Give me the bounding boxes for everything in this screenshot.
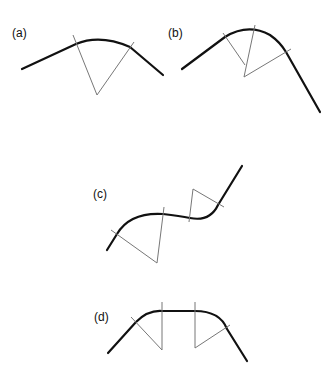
panel-d-curve (108, 311, 247, 361)
panel-b-radius-2 (244, 25, 255, 77)
panel-a-radius-left (73, 35, 97, 95)
panel-a-radius-right (97, 42, 134, 95)
panel-d-figure (108, 302, 247, 361)
panel-c-radius-4 (193, 189, 224, 207)
panel-b-radius-1 (223, 33, 245, 65)
panel-d-radius-4 (195, 325, 230, 348)
panel-c-radius-3 (189, 189, 193, 222)
panel-c-radius-1 (111, 230, 157, 263)
panel-c-radius-2 (157, 207, 164, 263)
panel-a-figure (22, 35, 163, 95)
panel-c-curve (107, 166, 242, 250)
curves-diagram (0, 0, 335, 372)
panel-c-figure (107, 166, 242, 263)
panel-b-radius-3 (244, 49, 291, 77)
panel-d-radius-1 (131, 317, 162, 350)
panel-a-curve (22, 40, 163, 75)
panel-b-figure (182, 25, 320, 112)
